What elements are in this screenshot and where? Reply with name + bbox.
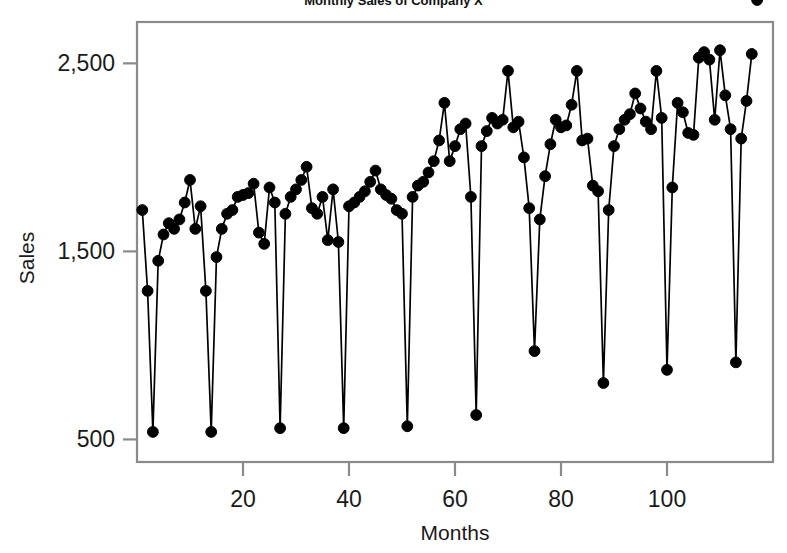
data-point-marker <box>338 423 349 434</box>
data-point-marker <box>450 141 461 152</box>
data-point-marker <box>503 65 514 76</box>
data-point-marker <box>715 45 726 56</box>
data-point-marker <box>625 109 636 120</box>
data-point-marker <box>434 135 445 146</box>
sales-line-chart: 5001,5002,500 20406080100 Sales Months <box>0 0 787 553</box>
data-point-marker <box>201 285 212 296</box>
data-point-marker <box>725 124 736 135</box>
data-point-marker <box>476 141 487 152</box>
data-point-marker <box>153 255 164 266</box>
chart-screenshot: Monthly Sales of Company X 5001,5002,500… <box>0 0 787 553</box>
data-point-marker <box>540 171 551 182</box>
data-point-marker <box>572 65 583 76</box>
data-point-marker <box>174 214 185 225</box>
data-point-marker <box>370 165 381 176</box>
data-point-marker <box>439 97 450 108</box>
data-point-marker <box>662 364 673 375</box>
data-point-marker <box>317 191 328 202</box>
data-point-marker <box>561 120 572 131</box>
data-point-marker <box>280 208 291 219</box>
y-tick-label: 500 <box>77 426 115 452</box>
data-point-marker <box>598 378 609 389</box>
sales-series-points <box>137 0 763 437</box>
data-point-marker <box>423 167 434 178</box>
y-axis-title: Sales <box>15 232 38 285</box>
data-point-marker <box>497 114 508 125</box>
data-point-marker <box>428 156 439 167</box>
data-point-marker <box>190 223 201 234</box>
x-tick-label: 100 <box>648 486 686 512</box>
data-point-marker <box>264 182 275 193</box>
data-point-marker <box>386 193 397 204</box>
data-point-marker <box>259 238 270 249</box>
data-point-marker <box>746 49 757 60</box>
data-point-marker <box>206 427 217 438</box>
data-point-marker <box>248 178 259 189</box>
data-point-marker <box>466 191 477 202</box>
data-point-marker <box>524 203 535 214</box>
data-point-marker <box>227 205 238 216</box>
x-axis-ticks: 20406080100 <box>230 462 686 512</box>
data-point-marker <box>211 252 222 263</box>
data-point-marker <box>513 116 524 127</box>
data-point-marker <box>545 139 556 150</box>
data-point-marker <box>609 141 620 152</box>
y-tick-label: 2,500 <box>57 50 115 76</box>
data-point-marker <box>185 175 196 186</box>
data-point-marker <box>582 133 593 144</box>
data-point-marker <box>704 54 715 65</box>
data-point-marker <box>736 133 747 144</box>
data-point-marker <box>148 427 159 438</box>
x-tick-label: 20 <box>230 486 256 512</box>
data-point-marker <box>481 126 492 137</box>
x-axis-title: Months <box>421 521 490 544</box>
data-point-marker <box>216 223 227 234</box>
data-point-marker <box>593 186 604 197</box>
y-axis-ticks: 5001,5002,500 <box>57 50 137 452</box>
plot-frame <box>137 22 773 462</box>
data-point-marker <box>322 235 333 246</box>
data-point-marker <box>566 99 577 110</box>
data-point-marker <box>137 205 148 216</box>
data-point-marker <box>333 237 344 248</box>
data-point-marker <box>460 118 471 129</box>
data-point-marker <box>312 208 323 219</box>
data-point-marker <box>630 88 641 99</box>
y-tick-label: 1,500 <box>57 238 115 264</box>
data-point-marker <box>731 357 742 368</box>
data-point-marker <box>688 129 699 140</box>
data-point-marker <box>195 201 206 212</box>
data-point-marker <box>678 107 689 118</box>
x-tick-label: 40 <box>336 486 362 512</box>
x-tick-label: 80 <box>548 486 574 512</box>
data-point-marker <box>667 182 678 193</box>
data-point-marker <box>407 191 418 202</box>
x-tick-label: 60 <box>442 486 468 512</box>
data-point-marker <box>142 285 153 296</box>
data-point-marker <box>365 176 376 187</box>
data-point-marker <box>741 96 752 107</box>
data-point-marker <box>656 113 667 124</box>
data-point-marker <box>301 161 312 172</box>
data-point-marker <box>444 156 455 167</box>
data-point-marker <box>646 124 657 135</box>
data-point-marker <box>296 175 307 186</box>
data-point-marker <box>519 152 530 163</box>
data-point-marker <box>275 423 286 434</box>
data-point-marker <box>397 208 408 219</box>
data-point-marker <box>328 184 339 195</box>
data-point-marker <box>471 410 482 421</box>
data-point-marker <box>254 227 265 238</box>
data-point-marker <box>179 197 190 208</box>
data-point-marker <box>651 65 662 76</box>
data-point-marker <box>720 90 731 101</box>
data-point-marker <box>269 197 280 208</box>
data-point-marker <box>752 0 763 5</box>
data-point-marker <box>158 229 169 240</box>
data-point-marker <box>635 103 646 114</box>
data-point-marker <box>603 205 614 216</box>
data-point-marker <box>709 114 720 125</box>
data-point-marker <box>534 214 545 225</box>
data-point-marker <box>529 346 540 357</box>
data-point-marker <box>402 421 413 432</box>
